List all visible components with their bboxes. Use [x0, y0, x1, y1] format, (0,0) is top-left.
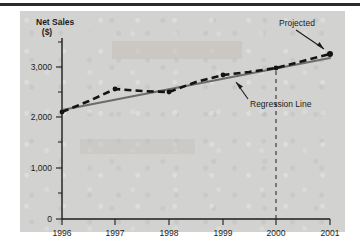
annotation-projected-arrowhead: [317, 42, 324, 49]
y-tick-label-3000: 3,000: [31, 62, 53, 72]
x-tick-label-1997: 1997: [106, 228, 125, 238]
data-point-1998: [167, 90, 172, 95]
net-sales-regression-chart: Net Sales ($) 0 1,000 2,000 3,000 1996 1…: [0, 0, 360, 249]
y-axis-title-line2: ($): [42, 27, 53, 37]
data-point-1996: [60, 110, 65, 115]
data-point-1997: [113, 87, 118, 92]
data-point-1999: [221, 73, 226, 78]
annotation-regression-label: Regression Line: [250, 99, 312, 109]
x-tick-label-1998: 1998: [160, 228, 179, 238]
x-tick-label-1996: 1996: [53, 228, 72, 238]
y-tick-label-0: 0: [47, 214, 52, 224]
x-tick-label-2001: 2001: [321, 228, 340, 238]
x-tick-label-2000: 2000: [267, 228, 286, 238]
data-point-2001: [327, 51, 333, 57]
y-axis-title-line1: Net Sales: [36, 17, 75, 27]
annotation-projected-label: Projected: [279, 18, 315, 28]
data-point-2000: [274, 66, 279, 71]
x-tick-label-1999: 1999: [214, 228, 233, 238]
annotation-regression-arrowhead: [236, 82, 243, 89]
y-tick-label-2000: 2,000: [31, 112, 53, 122]
y-tick-label-1000: 1,000: [31, 163, 53, 173]
